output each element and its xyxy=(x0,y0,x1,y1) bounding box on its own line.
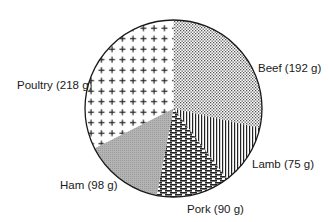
pie-chart: Beef (192 g) Lamb (75 g) Pork (90 g) Ham… xyxy=(0,0,329,222)
label-pork: Pork (90 g) xyxy=(187,203,244,215)
label-poultry: Poultry (218 g) xyxy=(17,79,93,91)
label-beef: Beef (192 g) xyxy=(258,62,321,74)
label-lamb: Lamb (75 g) xyxy=(252,158,314,170)
pie-slices xyxy=(85,20,262,197)
label-ham: Ham (98 g) xyxy=(60,179,118,191)
